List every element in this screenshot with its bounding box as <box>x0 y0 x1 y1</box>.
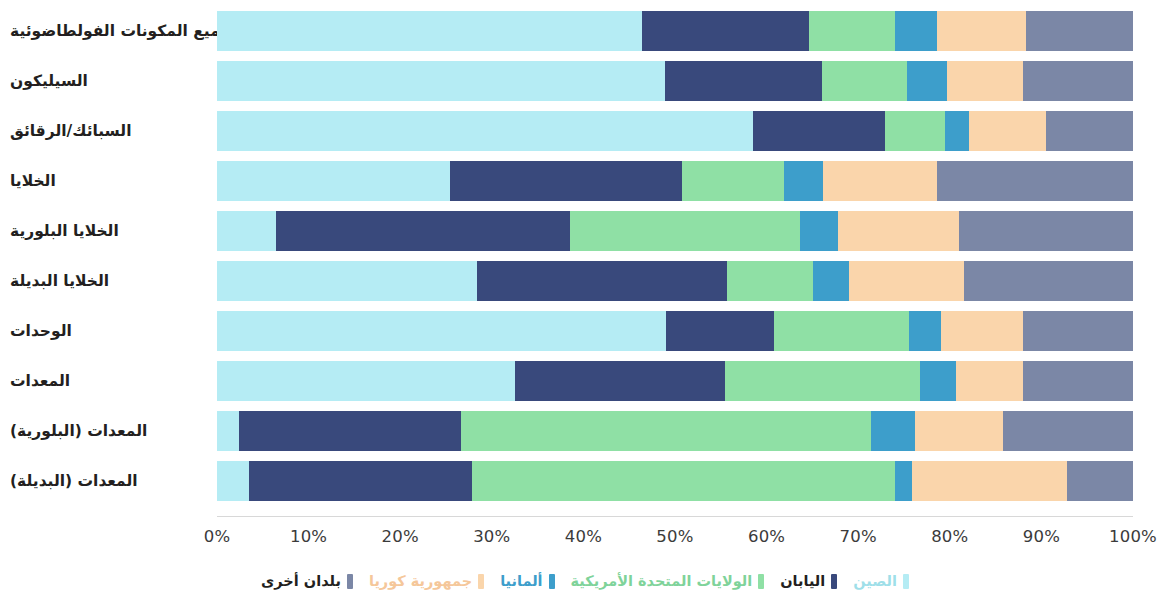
stacked-bar <box>217 311 1133 351</box>
category-label: المعدات (البلورية) <box>0 406 205 456</box>
bar-segment <box>515 361 726 401</box>
bar-segment <box>909 311 940 351</box>
bar-segment <box>461 411 871 451</box>
legend-swatch-icon <box>549 574 555 589</box>
legend-item[interactable]: الصين <box>853 573 909 589</box>
legend-item[interactable]: ألمانيا <box>500 573 554 589</box>
x-tick-label: 50% <box>656 527 693 546</box>
bar-segment <box>947 61 1023 101</box>
bar-segment <box>800 211 838 251</box>
bar-segment <box>937 11 1026 51</box>
bar-segment <box>472 461 895 501</box>
legend-item[interactable]: جمهورية كوريا <box>369 573 484 589</box>
bar-segment <box>249 461 472 501</box>
bar-row <box>217 456 1133 506</box>
bar-segment <box>959 211 1133 251</box>
bar-segment <box>809 11 895 51</box>
stacked-bar <box>217 11 1133 51</box>
chart-legend: الصيناليابانالولايات المتحدة الأمريكيةأل… <box>0 566 1170 596</box>
legend-swatch-icon <box>758 574 764 589</box>
category-label: السيليكون <box>0 56 205 106</box>
category-label: الخلايا البلورية <box>0 206 205 256</box>
category-label: المعدات <box>0 356 205 406</box>
bar-segment <box>1023 311 1133 351</box>
bar-segment <box>217 11 642 51</box>
category-label: الخلايا <box>0 156 205 206</box>
legend-swatch-icon <box>831 574 837 589</box>
bar-row <box>217 106 1133 156</box>
legend-label: اليابان <box>780 573 825 589</box>
bar-segment <box>920 361 957 401</box>
bar-segment <box>964 261 1133 301</box>
bar-segment <box>969 111 1046 151</box>
bar-segment <box>956 361 1023 401</box>
bar-segment <box>217 161 450 201</box>
legend-label: بلدان أخرى <box>261 573 341 589</box>
legend-label: الصين <box>853 573 897 589</box>
bar-segment <box>1023 61 1133 101</box>
bar-segment <box>912 461 1067 501</box>
x-axis-line <box>217 516 1133 517</box>
bar-segment <box>1026 11 1133 51</box>
bar-segment <box>915 411 1003 451</box>
bar-segment <box>784 161 823 201</box>
legend-item[interactable]: بلدان أخرى <box>261 573 353 589</box>
bar-segment <box>945 111 969 151</box>
bar-segment <box>725 361 919 401</box>
category-label: المعدات (البديلة) <box>0 456 205 506</box>
stacked-bar <box>217 61 1133 101</box>
bar-segment <box>217 311 666 351</box>
bar-segment <box>570 211 800 251</box>
x-tick-label: 0% <box>204 527 231 546</box>
x-tick-label: 80% <box>931 527 968 546</box>
bar-segment <box>849 261 964 301</box>
bar-segment <box>822 61 907 101</box>
bar-segment <box>217 361 515 401</box>
stacked-bar <box>217 461 1133 501</box>
bar-segment <box>217 411 239 451</box>
x-tick-label: 60% <box>748 527 785 546</box>
plot-area <box>217 6 1133 515</box>
bar-segment <box>937 161 1133 201</box>
bar-segment <box>907 61 947 101</box>
bar-segment <box>682 161 784 201</box>
stacked-bar <box>217 411 1133 451</box>
bar-segment <box>1003 411 1133 451</box>
bar-segment <box>1067 461 1133 501</box>
legend-swatch-icon <box>347 574 353 589</box>
bar-row <box>217 206 1133 256</box>
bar-segment <box>1046 111 1133 151</box>
stacked-bar <box>217 361 1133 401</box>
bar-row <box>217 6 1133 56</box>
category-label: الخلايا البديلة <box>0 256 205 306</box>
x-tick-label: 20% <box>382 527 419 546</box>
legend-item[interactable]: الولايات المتحدة الأمريكية <box>571 573 765 589</box>
bar-segment <box>895 11 937 51</box>
bar-segment <box>217 461 249 501</box>
legend-swatch-icon <box>903 574 909 589</box>
bar-segment <box>642 11 809 51</box>
bar-segment <box>823 161 937 201</box>
stacked-bar <box>217 211 1133 251</box>
category-axis: جميع المكونات الفولطاضوئيةالسيليكونالسبا… <box>0 6 205 515</box>
stacked-bar <box>217 161 1133 201</box>
bar-segment <box>895 461 912 501</box>
x-tick-label: 70% <box>840 527 877 546</box>
x-tick-label: 30% <box>473 527 510 546</box>
bar-segment <box>276 211 570 251</box>
legend-label: جمهورية كوريا <box>369 573 472 589</box>
bar-row <box>217 256 1133 306</box>
x-tick-label: 100% <box>1109 527 1157 546</box>
bar-segment <box>727 261 813 301</box>
legend-label: ألمانيا <box>500 573 542 589</box>
bar-segment <box>217 211 276 251</box>
bar-segment <box>838 211 959 251</box>
bar-row <box>217 306 1133 356</box>
x-tick-label: 90% <box>1023 527 1060 546</box>
bar-segment <box>885 111 945 151</box>
category-label: جميع المكونات الفولطاضوئية <box>0 6 205 56</box>
legend-item[interactable]: اليابان <box>780 573 837 589</box>
bar-segment <box>871 411 915 451</box>
legend-label: الولايات المتحدة الأمريكية <box>571 573 753 589</box>
bar-segment <box>941 311 1023 351</box>
